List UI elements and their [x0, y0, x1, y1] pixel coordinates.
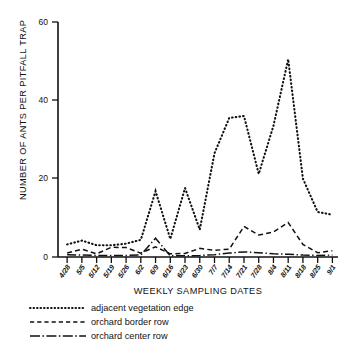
legend-label-orchard-border-row: orchard border row — [91, 317, 169, 327]
x-tick-label-8-4: 8/4 — [265, 263, 278, 276]
y-tick-labels: 60 40 20 0 — [39, 17, 49, 262]
data-series-layer — [67, 59, 332, 256]
x-tick-label-6-23: 6/23 — [175, 263, 190, 280]
y-axis-title: NUMBER OF ANTS PER PITFALL TRAP — [18, 20, 28, 200]
y-tick-marks — [52, 22, 58, 257]
series-adjacent-vegetation-edge — [67, 59, 332, 245]
x-tick-label-5-12: 5/12 — [86, 263, 101, 280]
x-tick-label-6-16: 6/16 — [160, 262, 176, 279]
x-tick-marks — [67, 257, 332, 263]
y-tick-label-40: 40 — [39, 95, 49, 105]
x-tick-label-4-28: 4/28 — [56, 263, 72, 280]
x-tick-label-6-2: 6/2 — [133, 263, 146, 276]
y-tick-label-0: 0 — [43, 252, 48, 262]
x-axis-title: WEEKLY SAMPLING DATES — [134, 286, 262, 296]
x-tick-label-8-18: 8/18 — [293, 263, 308, 280]
y-tick-label-20: 20 — [39, 173, 49, 183]
x-tick-label-6-30: 6/30 — [190, 263, 205, 280]
x-tick-label-5-19: 5/19 — [101, 263, 116, 280]
y-tick-label-60: 60 — [39, 17, 49, 27]
legend-label-adjacent-vegetation-edge: adjacent vegetation edge — [91, 303, 194, 313]
x-tick-label-8-11: 8/11 — [278, 263, 293, 279]
axes-group — [58, 22, 338, 257]
x-tick-label-7-28: 7/28 — [248, 263, 263, 280]
x-tick-label-5-26: 5/26 — [116, 262, 132, 279]
legend: adjacent vegetation edge orchard border … — [30, 303, 194, 341]
chart-figure: 60 40 20 0 NUMBER OF ANTS PER PITFALL TR… — [0, 0, 355, 353]
x-tick-label-9-1: 9/1 — [324, 263, 337, 276]
x-tick-label-7-14: 7/14 — [219, 263, 234, 280]
x-tick-label-6-9: 6/9 — [148, 263, 161, 276]
x-tick-label-7-21: 7/21 — [234, 263, 249, 280]
ants-per-pitfall-trap-line-chart: 60 40 20 0 NUMBER OF ANTS PER PITFALL TR… — [0, 0, 355, 353]
x-tick-label-8-25: 8/25 — [307, 262, 323, 279]
x-tick-labels: 4/285/55/125/195/266/26/96/166/236/307/7… — [56, 262, 337, 280]
series-orchard-center-row — [67, 238, 332, 256]
legend-label-orchard-center-row: orchard center row — [91, 331, 168, 341]
